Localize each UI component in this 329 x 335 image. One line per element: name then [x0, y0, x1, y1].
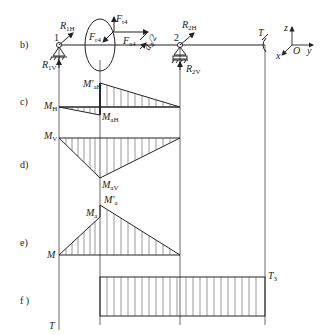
section-f-label: f )	[20, 296, 29, 306]
label-torque-t: T	[258, 28, 264, 38]
label-mV: MV	[44, 131, 57, 143]
label-mH: MH	[44, 101, 57, 113]
label-fr4: Fr4	[89, 32, 101, 44]
label-t: T	[49, 321, 55, 331]
hatch-f	[107, 277, 256, 316]
label-r2v: R2V	[186, 64, 201, 76]
label-ft4: Ft4	[116, 14, 128, 26]
label-m: M	[47, 250, 55, 260]
moment-diagram-c	[59, 83, 180, 115]
moment-diagram-d	[59, 138, 180, 178]
label-maV: MaV	[102, 180, 119, 192]
section-d-label: d)	[20, 160, 28, 170]
label-ma: Ma	[86, 208, 97, 220]
label-support-2: 2	[174, 33, 179, 43]
label-ma-prime: M'a	[104, 195, 118, 207]
moment-diagram-e	[59, 205, 180, 255]
label-r1h: R1H	[60, 21, 75, 33]
label-fa4: Fa4	[123, 36, 136, 48]
label-axis-y: y	[307, 46, 311, 56]
label-maH-prime: M'aH	[83, 79, 102, 91]
label-support-1: 1	[54, 33, 59, 43]
label-maH: MaH	[102, 112, 119, 124]
torque-diagram-f	[100, 277, 265, 316]
section-e-label: e)	[20, 238, 28, 248]
shaft	[59, 19, 265, 71]
section-b-label: b)	[20, 40, 28, 50]
label-axis-z: z	[284, 23, 288, 33]
label-t3: T3	[268, 271, 277, 283]
section-c-label: c)	[20, 97, 28, 107]
label-origin-o: O	[293, 46, 300, 56]
label-r1v: R1V	[42, 60, 57, 72]
label-axis-x: x	[276, 51, 280, 61]
label-r2h: R2H	[182, 20, 197, 32]
